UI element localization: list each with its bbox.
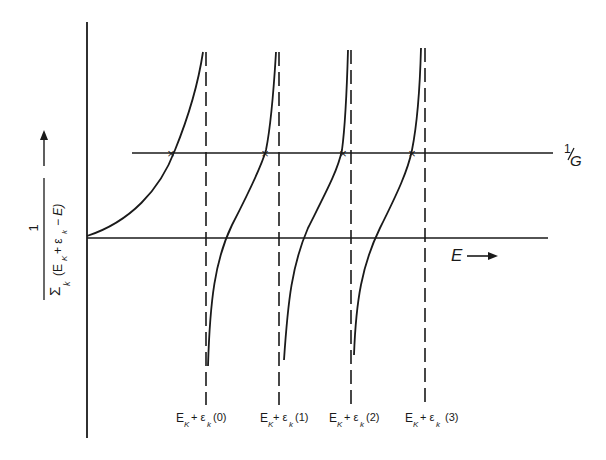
svg-text:(E: (E (51, 264, 65, 276)
svg-text:+ ε: + ε (51, 238, 65, 254)
asymptote-label-0: E K + ε k (0) (176, 411, 226, 429)
svg-text:k: k (436, 420, 441, 429)
asymptote-label-3: E K + ε k (3) (405, 411, 458, 429)
intersection-marker-1: × (261, 146, 269, 161)
svg-text:k: k (207, 420, 212, 429)
svg-text:G: G (570, 152, 582, 169)
svg-text:+ ε: + ε (191, 411, 205, 423)
x-axis-label: E (451, 246, 498, 265)
arrow-up-icon (40, 130, 48, 140)
svg-text:(0): (0) (213, 411, 226, 423)
y-axis-label: 1 Σ k (E K + ε k − E) (26, 130, 72, 300)
asymptotes (206, 48, 425, 405)
branch-0 (87, 52, 203, 236)
svg-text:E: E (176, 411, 184, 425)
svg-text:E: E (405, 411, 413, 425)
svg-text:E: E (451, 246, 463, 265)
branch-1 (208, 52, 276, 366)
branch-2 (284, 50, 348, 360)
asymptote-label-2: E K + ε k (2) (329, 411, 379, 429)
svg-text:k: k (360, 420, 365, 429)
svg-text:+ ε: + ε (420, 411, 434, 423)
svg-text:K: K (184, 420, 190, 429)
svg-text:E: E (329, 411, 337, 425)
svg-text:Σ: Σ (46, 287, 63, 296)
asymptote-label-1: E K + ε k (1) (260, 411, 308, 429)
svg-text:+ ε: + ε (344, 411, 358, 423)
arrow-right-icon (488, 252, 498, 260)
svg-text:K: K (60, 255, 69, 261)
svg-text:1: 1 (26, 224, 41, 231)
svg-text:E: E (260, 411, 268, 425)
svg-text:+ ε: + ε (273, 411, 287, 423)
intersection-marker-0: × (167, 146, 175, 161)
intersection-marker-3: × (408, 146, 416, 161)
intersection-marker-2: × (339, 146, 347, 161)
svg-text:(3): (3) (445, 411, 458, 423)
one-over-g-label: 1 G (564, 142, 582, 169)
svg-text:(2): (2) (366, 411, 379, 423)
svg-text:K: K (413, 420, 419, 429)
eigenvalue-diagram: × × × × 1 G E 1 Σ k (E K + ε k − E) E K … (0, 0, 606, 460)
svg-text:(1): (1) (295, 411, 308, 423)
asymptote-labels: E K + ε k (0) E K + ε k (1) E K + ε k (2… (176, 411, 458, 429)
svg-text:− E): − E) (51, 204, 65, 226)
svg-text:k: k (289, 420, 294, 429)
svg-text:k: k (60, 229, 69, 234)
svg-text:k: k (62, 281, 72, 286)
curves (87, 48, 421, 366)
svg-text:K: K (337, 420, 343, 429)
branch-3 (354, 48, 421, 355)
